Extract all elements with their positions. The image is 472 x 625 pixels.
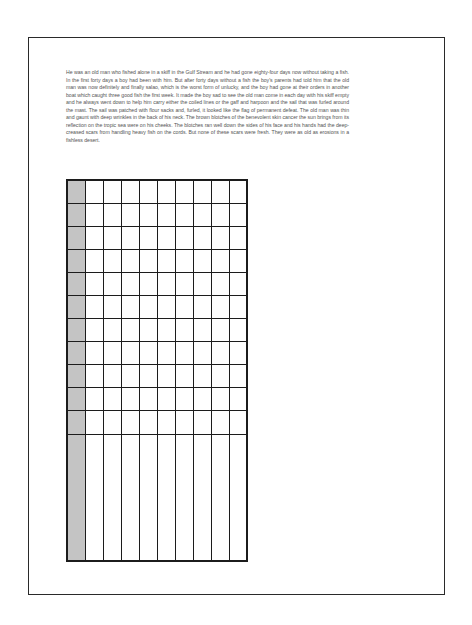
grid-cell: [139, 249, 157, 272]
grid-cell: [229, 272, 247, 295]
grid-cell: [85, 388, 103, 411]
grid-cell: [139, 319, 157, 342]
shaded-cell: [67, 295, 85, 318]
grid-cell: [175, 319, 193, 342]
grid-cell: [121, 365, 139, 388]
grid-cell: [157, 249, 175, 272]
grid-cell: [139, 342, 157, 365]
shaded-cell: [67, 342, 85, 365]
grid-row: [67, 365, 247, 388]
grid-cell: [175, 342, 193, 365]
grid-cell: [121, 388, 139, 411]
grid-cell: [121, 434, 139, 561]
grid-row: [67, 226, 247, 249]
grid-cell: [103, 411, 121, 434]
grid-cell: [229, 342, 247, 365]
grid-row-tall: [67, 434, 247, 561]
grid-cell: [229, 319, 247, 342]
grid-cell: [229, 434, 247, 561]
grid-cell: [193, 434, 211, 561]
grid-cell: [211, 272, 229, 295]
grid-cell: [85, 319, 103, 342]
shaded-cell: [67, 411, 85, 434]
grid-cell: [85, 411, 103, 434]
shaded-cell: [67, 272, 85, 295]
grid-cell: [157, 411, 175, 434]
grid-cell: [85, 272, 103, 295]
grid-cell: [229, 249, 247, 272]
grid-cell: [175, 272, 193, 295]
shaded-cell: [67, 434, 85, 561]
grid-cell: [139, 434, 157, 561]
grid-row: [67, 388, 247, 411]
grid-cell: [103, 249, 121, 272]
grid-row: [67, 203, 247, 226]
shaded-cell: [67, 226, 85, 249]
grid-cell: [85, 226, 103, 249]
grid-cell: [157, 203, 175, 226]
grid-row: [67, 295, 247, 318]
grid-body: [67, 180, 247, 561]
shaded-cell: [67, 365, 85, 388]
grid-cell: [193, 319, 211, 342]
blank-grid: [66, 179, 248, 562]
grid-cell: [103, 342, 121, 365]
grid-cell: [139, 365, 157, 388]
grid-cell: [211, 434, 229, 561]
grid-cell: [175, 226, 193, 249]
grid-cell: [175, 249, 193, 272]
grid-cell: [175, 434, 193, 561]
grid-cell: [121, 411, 139, 434]
grid-cell: [175, 411, 193, 434]
grid-cell: [103, 388, 121, 411]
grid-cell: [157, 342, 175, 365]
grid-cell: [85, 365, 103, 388]
grid-cell: [193, 226, 211, 249]
grid-cell: [229, 365, 247, 388]
grid-cell: [211, 319, 229, 342]
grid-cell: [157, 434, 175, 561]
grid-cell: [229, 203, 247, 226]
grid-cell: [157, 319, 175, 342]
grid-cell: [121, 272, 139, 295]
grid-cell: [193, 342, 211, 365]
grid-cell: [139, 272, 157, 295]
grid-cell: [103, 319, 121, 342]
grid-cell: [193, 365, 211, 388]
grid-cell: [121, 342, 139, 365]
grid-cell: [229, 411, 247, 434]
grid-cell: [103, 203, 121, 226]
grid-cell: [103, 365, 121, 388]
grid-cell: [193, 249, 211, 272]
shaded-cell: [67, 180, 85, 203]
grid-cell: [175, 365, 193, 388]
grid-row: [67, 180, 247, 203]
grid-cell: [211, 295, 229, 318]
grid-cell: [103, 180, 121, 203]
grid-row: [67, 272, 247, 295]
grid-cell: [193, 388, 211, 411]
grid-cell: [103, 226, 121, 249]
grid-cell: [103, 272, 121, 295]
grid-cell: [193, 295, 211, 318]
grid-cell: [175, 388, 193, 411]
grid-cell: [85, 203, 103, 226]
shaded-cell: [67, 388, 85, 411]
grid-cell: [157, 226, 175, 249]
grid-cell: [85, 180, 103, 203]
grid-cell: [229, 295, 247, 318]
grid-cell: [121, 180, 139, 203]
grid-cell: [85, 249, 103, 272]
grid-cell: [193, 272, 211, 295]
grid-cell: [193, 411, 211, 434]
grid-cell: [157, 180, 175, 203]
grid-cell: [139, 411, 157, 434]
grid-cell: [139, 203, 157, 226]
grid-cell: [193, 203, 211, 226]
grid-row: [67, 411, 247, 434]
grid-cell: [157, 295, 175, 318]
grid-cell: [211, 388, 229, 411]
grid-cell: [229, 226, 247, 249]
grid-cell: [85, 342, 103, 365]
grid-cell: [121, 319, 139, 342]
